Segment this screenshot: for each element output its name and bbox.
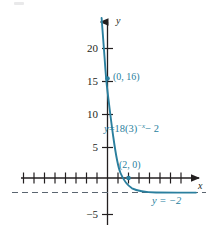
graph-figure: 20 15 10 5 −5 y x (0, 16) (2, 0) y=18(3)…: [0, 0, 212, 239]
y-tick-label-neg5: −5: [62, 209, 98, 220]
asymptote-equation-label: y = −2: [152, 196, 181, 207]
point-marker-2-0: [126, 176, 131, 181]
curve-equation-label: y=18(3)−x− 2: [104, 124, 159, 135]
y-tick-label-5: 5: [62, 142, 98, 153]
y-axis-label: y: [116, 16, 120, 26]
x-axis-label: x: [198, 181, 202, 191]
y-tick-label-15: 15: [62, 76, 98, 87]
y-tick-label-20: 20: [62, 43, 98, 54]
point-label-0-16: (0, 16): [113, 72, 140, 82]
function-curve: [102, 18, 196, 193]
y-tick-label-10: 10: [62, 109, 98, 120]
equation-coefficient: 18(3): [115, 123, 138, 134]
equation-constant: − 2: [145, 123, 159, 134]
point-label-2-0: (2, 0): [119, 160, 141, 170]
equation-exponent: −x: [137, 122, 145, 130]
point-marker-0-16: [105, 76, 110, 81]
